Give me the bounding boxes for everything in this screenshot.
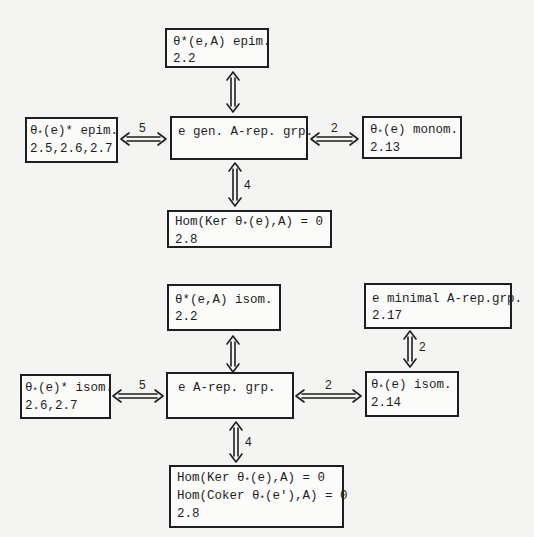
subscript: * [378, 129, 383, 139]
text: (e),A) = 0 [250, 471, 325, 485]
node-ref: 2.5,2.6,2.7 [30, 141, 110, 158]
node-text: Hom(Ker θ*(e),A) = 0 [175, 214, 324, 232]
node-lower-right: θ*(e) isom. 2.14 [365, 371, 459, 417]
node-text: θ*(e,A) isom. [175, 292, 273, 309]
node-ref: 2.17 [372, 308, 510, 325]
text: (e)* isom. [38, 381, 113, 395]
arrow-label-lower-left: 5 [139, 378, 146, 392]
text: Hom(Ker θ [175, 215, 243, 229]
subscript: * [379, 384, 384, 394]
node-text: θ*(e) isom. [371, 377, 451, 395]
node-text: e A-rep. grp. [178, 380, 286, 397]
arrow-label-upper-right: 2 [331, 121, 338, 135]
node-text: θ*(e,A) epim. [173, 34, 261, 51]
node-upper-top: θ*(e,A) epim. 2.2 [165, 28, 269, 68]
text: Hom(Ker θ [177, 471, 245, 485]
text: (e)* epim. [43, 124, 118, 138]
node-lower-top: θ*(e,A) isom. 2.2 [167, 284, 281, 331]
node-ref: 2.8 [177, 506, 336, 523]
node-ref: 2.8 [175, 232, 324, 249]
node-text: Hom(Coker θ*(e'),A) = 0 [177, 488, 336, 506]
node-upper-center: e gen. A-rep. grp. [170, 116, 308, 160]
node-text: θ*(e)* epim. [30, 123, 110, 141]
arrow-upper-center-bottom [229, 163, 241, 206]
arrow-lower-top-center [227, 336, 239, 372]
node-text: e gen. A-rep. grp. [178, 124, 300, 141]
theta-symbol: θ [30, 124, 38, 138]
subscript: * [243, 221, 248, 231]
subscript: * [260, 495, 265, 505]
arrow-upper-top-center [227, 72, 239, 112]
node-ref: 2.14 [371, 395, 451, 412]
text: (e),A) = 0 [248, 215, 323, 229]
node-ref: 2.13 [370, 140, 454, 157]
node-text: Hom(Ker θ*(e),A) = 0 [177, 470, 336, 488]
arrow-label-upper-left: 5 [139, 121, 146, 135]
node-lower-top-right: e minimal A-rep.grp. 2.17 [364, 283, 512, 329]
arrow-lower-center-bottom [230, 422, 242, 462]
subscript: * [38, 130, 43, 140]
theta-symbol: θ [25, 381, 33, 395]
text: (e'),A) = 0 [265, 489, 348, 503]
subscript: * [245, 477, 250, 487]
arrow-label-lower-right: 2 [325, 378, 332, 392]
theta-symbol: θ [371, 378, 379, 392]
node-ref: 2.2 [173, 51, 261, 68]
theta-symbol: θ [370, 123, 378, 137]
text: (e) monom. [383, 123, 458, 137]
text: (e) isom. [384, 378, 452, 392]
arrow-lower-left-center [113, 390, 163, 402]
arrow-label-lower-bottom: 4 [245, 435, 252, 449]
node-lower-center: e A-rep. grp. [166, 372, 294, 419]
node-upper-right: θ*(e) monom. 2.13 [362, 116, 462, 159]
node-text: θ*(e)* isom. [25, 380, 103, 398]
node-ref: 2.2 [175, 309, 273, 326]
arrow-label-upper-bottom: 4 [244, 178, 251, 192]
node-upper-left: θ*(e)* epim. 2.5,2.6,2.7 [25, 117, 118, 163]
arrow-lower-topright-right [404, 331, 416, 367]
node-upper-bottom: Hom(Ker θ*(e),A) = 0 2.8 [167, 210, 332, 248]
node-lower-left: θ*(e)* isom. 2.6,2.7 [20, 374, 111, 419]
arrows-layer [0, 0, 534, 537]
text: Hom(Coker θ [177, 489, 260, 503]
arrow-label-lower-topright: 2 [419, 340, 426, 354]
node-ref: 2.6,2.7 [25, 398, 103, 415]
node-text: θ*(e) monom. [370, 122, 454, 140]
subscript: * [33, 387, 38, 397]
node-text: e minimal A-rep.grp. [372, 291, 510, 308]
node-lower-bottom: Hom(Ker θ*(e),A) = 0 Hom(Coker θ*(e'),A)… [169, 465, 344, 528]
